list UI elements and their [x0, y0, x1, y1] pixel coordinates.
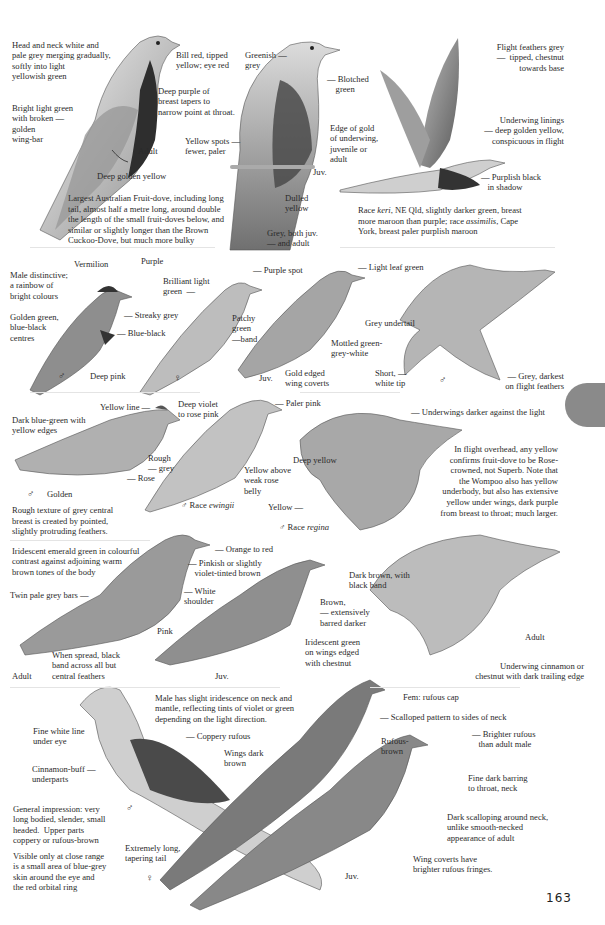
- race-name: assimilis: [466, 216, 496, 226]
- label-rose: — Rose: [127, 473, 155, 483]
- label-deep-pink: Deep pink: [90, 371, 126, 381]
- label-vent: Deep golden yellow: [97, 171, 166, 181]
- label-pink: Pink: [157, 626, 173, 636]
- section-thumb-tab: [565, 383, 605, 427]
- wompoo-description: Largest Australian Fruit-dove, including…: [68, 193, 230, 246]
- label-dark-blue-green: Dark blue-green with yellow edges: [12, 415, 86, 436]
- label-race-regina: ♂ Race regina: [279, 522, 329, 532]
- rose-crowned-texture-note: Rough texture of grey central breast is …: [12, 505, 120, 537]
- label-underwing: Underwing cinnamon or chestnut with dark…: [475, 661, 584, 682]
- label-race-ewingii: ♂ Race ewingii: [181, 500, 234, 510]
- label-iridescent: Iridescent emerald green in colourful co…: [12, 546, 139, 577]
- label-orange-red: — Orange to red: [215, 544, 273, 554]
- label-adult: Adult: [138, 146, 158, 156]
- section-divider: [30, 392, 200, 393]
- label-brown-barred: Brown, — extensively barred darker: [320, 597, 370, 628]
- label-streaky: — Streaky grey: [124, 310, 178, 320]
- label-golden: Golden: [47, 489, 72, 499]
- label-underwing: Underwing linings — deep golden yellow, …: [484, 115, 564, 146]
- label-grey-undertail: Grey undertail: [365, 318, 415, 328]
- label-flight-feathers: Flight feathers grey — tipped, chestnut …: [497, 42, 564, 73]
- label-male-distinctive: Male distinctive; a rainbow of bright co…: [10, 270, 68, 301]
- label-brilliant: Brilliant light green —: [163, 276, 210, 297]
- wompoo-races-note: Race keri, NE Qld, slightly darker green…: [358, 205, 528, 237]
- label-brighter: — Brighter rufous than adult male: [472, 729, 536, 750]
- label-adult: Adult: [12, 671, 32, 681]
- label-deep-yellow: Deep yellow: [293, 455, 337, 465]
- race-name: regina: [307, 522, 329, 532]
- race-name: ewingii: [209, 500, 234, 510]
- label-leaf-green: — Light leaf green: [358, 262, 424, 272]
- label-iridescent-green: Iridescent green on wings edged with che…: [305, 637, 360, 668]
- race-name: keri: [377, 205, 390, 215]
- label-purple-spot: — Purple spot: [253, 265, 303, 275]
- label-coppery: — Coppery rufous: [186, 731, 250, 741]
- label-patchy: Patchy green —band: [232, 313, 257, 344]
- label-yellow-line: Yellow line —: [100, 402, 150, 412]
- label-juv: Juv.: [215, 671, 229, 681]
- male-symbol-flight: ♂: [439, 375, 447, 385]
- label-bill: Bill red, tipped yellow; eye red: [176, 50, 229, 71]
- label-purple: Purple: [141, 256, 163, 266]
- male-symbol: ♂: [126, 803, 134, 813]
- male-symbol: ♂: [58, 371, 66, 381]
- label-male-iridescence: Male has slight iridescence on neck and …: [155, 693, 294, 724]
- label-juv-spots: Yellow spots — fewer, paler: [185, 136, 240, 157]
- label-twin-bars: Twin pale grey bars —: [10, 590, 89, 600]
- label-wingbar: Bright light green with broken — golden …: [12, 103, 73, 145]
- label-rufous-brown: Rufous- brown: [381, 736, 409, 757]
- label-wing-coverts: Wing coverts have brighter rufous fringe…: [413, 854, 492, 875]
- section-divider: [300, 392, 400, 393]
- label-juv-dulled: Dulled yellow: [285, 193, 308, 214]
- label-gold-edged: Gold edged wing coverts: [285, 368, 329, 389]
- label-yellow: Yellow —: [268, 502, 303, 512]
- label-general: General impression: very long bodied, sl…: [13, 804, 106, 846]
- label-fine-dark: Fine dark barring to throat, neck: [468, 773, 528, 794]
- section-divider: [10, 687, 280, 688]
- section-divider: [10, 540, 150, 541]
- label-fem-cap: Fem: rufous cap: [403, 692, 459, 702]
- label-grey-darkest: — Grey, darkest on flight feathers: [505, 371, 564, 392]
- wompoo-flight-illustration: [340, 38, 505, 193]
- female-symbol: ♀: [174, 373, 182, 383]
- label-shadow: — Purplish black in shadow: [481, 172, 541, 193]
- text: Race: [358, 205, 377, 215]
- label-deep-violet: Deep violet to rose pink: [178, 399, 219, 420]
- label-tail-grey: Grey, both juv. — and adult: [267, 228, 318, 249]
- label-spread: When spread, black band across all but c…: [52, 650, 120, 681]
- label-juv-head: Greenish — grey: [245, 50, 287, 71]
- label-long-tail: Extremely long, tapering tail: [125, 843, 180, 864]
- section-divider: [340, 247, 555, 248]
- label-pinkish: — Pinkish or slightly violet-tinted brow…: [188, 558, 262, 579]
- label-juv-blotched: — Blotched green: [327, 74, 369, 95]
- section-divider: [30, 247, 215, 248]
- section-divider: [370, 687, 520, 688]
- rose-crowned-flight-note: In flight overhead, any yellow confirms …: [440, 444, 558, 518]
- label-visible: Visible only at close range is a small a…: [13, 851, 106, 893]
- label-dark-scalloping: Dark scalloping around neck, unlike smoo…: [447, 812, 548, 843]
- label-juv: Juv.: [259, 373, 273, 383]
- wompoo-juvenile-illustration: [230, 42, 340, 250]
- page-number: 163: [546, 891, 572, 905]
- male-symbol: ♂: [27, 489, 35, 499]
- label-mottled: Mottled green- grey-white: [331, 338, 382, 359]
- label-juv: Juv.: [345, 871, 359, 881]
- label-cinnamon: Cinnamon-buff — underparts: [32, 764, 96, 785]
- label-scalloped: — Scalloped pattern to sides of neck: [380, 712, 507, 722]
- label-juv: Juv.: [313, 167, 327, 177]
- label-breast: Deep purple of breast tapers to narrow p…: [158, 86, 235, 117]
- label-juv-edge: Edge of gold of underwing, juvenile or a…: [330, 123, 378, 165]
- label-rough-grey: Rough — grey: [148, 453, 174, 474]
- label-adult-flight: Adult: [525, 632, 545, 642]
- label-short-tip: Short, — white tip: [375, 368, 407, 389]
- label-dark-brown: Dark brown, with black band: [349, 570, 410, 591]
- label-blue-black: — Blue-black: [117, 328, 165, 338]
- label-yellow-above: Yellow above weak rose belly: [244, 465, 291, 496]
- race-prefix: ♂ Race: [181, 500, 209, 510]
- label-vermilion: Vermilion: [74, 259, 108, 269]
- label-underwings: — Underwings darker against the light: [411, 407, 545, 417]
- label-head-neck: Head and neck white and pale grey mergin…: [12, 40, 111, 82]
- label-fine-white: Fine white line under eye: [33, 726, 85, 747]
- label-golden-green: Golden green, blue-black centres: [10, 312, 59, 343]
- race-prefix: ♂ Race: [279, 522, 307, 532]
